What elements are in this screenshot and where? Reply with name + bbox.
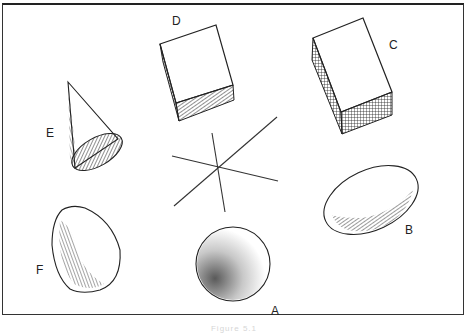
label-a: A xyxy=(271,304,279,318)
label-d: D xyxy=(172,14,181,28)
cone-shape-e xyxy=(66,82,128,178)
rounded-solid-shape-f xyxy=(52,206,120,292)
label-e: E xyxy=(46,126,54,140)
box-shape-c xyxy=(312,18,392,134)
sphere-shape-a xyxy=(196,227,270,301)
figure-caption: Figure 5.1 xyxy=(0,324,468,333)
label-b: B xyxy=(405,223,413,237)
label-f: F xyxy=(36,263,43,277)
cube-shape-d xyxy=(160,25,234,121)
crossed-lines xyxy=(172,117,278,212)
label-c: C xyxy=(389,38,398,52)
